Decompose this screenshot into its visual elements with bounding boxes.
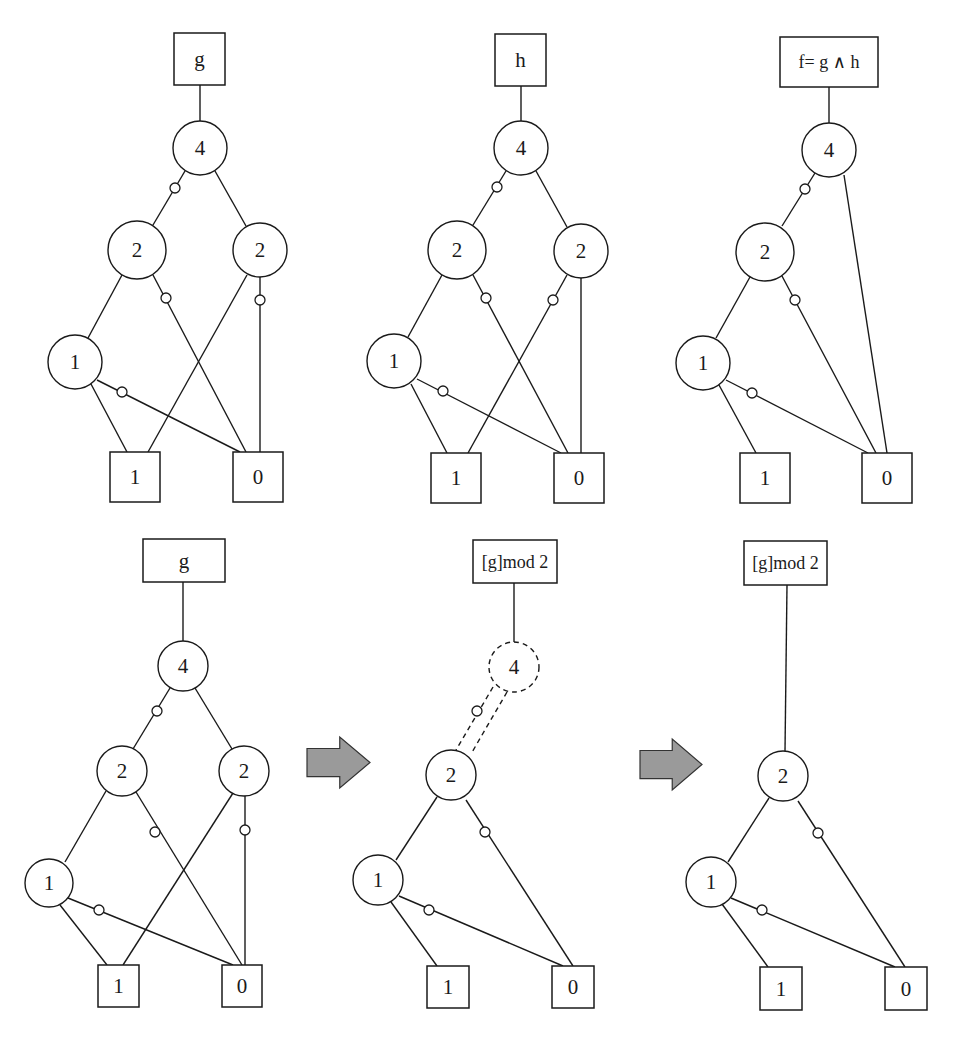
panel-top-h: h422110	[367, 34, 608, 503]
complement-marker-icon	[117, 387, 127, 397]
function-label-box: g	[143, 539, 225, 582]
function-label-box: g	[174, 33, 225, 85]
edge	[399, 896, 563, 966]
variable-node: 2	[97, 746, 147, 796]
function-label-box: [g]mod 2	[473, 540, 557, 583]
terminal-node-0: 0	[554, 453, 604, 503]
terminal-node-0: 0	[862, 453, 912, 503]
terminal-node-0: 0	[222, 965, 262, 1007]
complement-marker-icon	[548, 295, 558, 305]
terminal-label: 1	[443, 975, 454, 999]
edge	[88, 275, 122, 338]
terminal-label: 0	[574, 466, 585, 490]
node-label: 2	[132, 238, 143, 262]
terminal-node-1: 1	[110, 452, 160, 502]
edge	[473, 171, 506, 225]
complement-marker-icon	[161, 293, 171, 303]
edge	[716, 277, 750, 338]
edge	[728, 798, 769, 862]
variable-node: 2	[233, 223, 287, 277]
variable-node: 1	[686, 857, 736, 907]
function-label: g	[194, 47, 205, 71]
node-label: 2	[778, 764, 789, 788]
node-label: 1	[698, 351, 709, 375]
variable-node: 4	[158, 641, 208, 691]
terminal-label: 0	[901, 977, 912, 1001]
panel-bottom-g-edges	[60, 582, 245, 965]
complement-marker-icon	[424, 905, 434, 915]
edge	[785, 585, 787, 751]
edge	[536, 171, 567, 227]
right-arrow-icon	[640, 739, 702, 790]
variable-node: 1	[25, 859, 73, 907]
terminal-label: 0	[882, 466, 893, 490]
edge	[798, 801, 905, 967]
complement-marker-icon	[492, 182, 502, 192]
variable-node: 2	[554, 224, 608, 278]
edge	[68, 898, 233, 965]
terminal-node-0: 0	[233, 452, 283, 502]
terminal-node-1: 1	[760, 967, 802, 1010]
node-label: 4	[178, 654, 189, 678]
function-label-box: [g]mod 2	[744, 541, 827, 585]
function-label: g	[179, 549, 190, 573]
terminal-node-1: 1	[98, 965, 139, 1007]
node-label: 2	[239, 759, 250, 783]
complement-marker-icon	[438, 386, 448, 396]
variable-node: 1	[48, 335, 102, 389]
node-label: 2	[760, 240, 771, 264]
variable-node: 2	[758, 751, 808, 801]
complement-marker-icon	[240, 825, 250, 835]
variable-node: 2	[108, 221, 166, 279]
edge	[215, 171, 246, 226]
terminal-label: 1	[130, 465, 141, 489]
complement-marker-icon	[800, 184, 810, 194]
panel-bottom-mod-step1-edges	[391, 583, 573, 966]
removed-variable-node: 4	[489, 642, 539, 692]
node-label: 1	[389, 349, 400, 373]
complement-marker-icon	[481, 293, 491, 303]
edge	[123, 793, 233, 965]
node-label: 4	[509, 655, 520, 679]
terminal-label: 1	[451, 466, 462, 490]
panel-bottom-mod-step1: [g]mod 242110	[353, 540, 594, 1008]
variable-node: 1	[353, 855, 403, 905]
node-label: 1	[70, 350, 81, 374]
terminal-label: 0	[568, 975, 579, 999]
terminal-node-1: 1	[431, 453, 481, 503]
function-label-box: h	[495, 34, 546, 86]
nodes-layer: g422110h422110f= g ∧ h42110g422110[g]mod…	[25, 33, 927, 1010]
variable-node: 4	[802, 123, 856, 177]
variable-node: 4	[494, 121, 548, 175]
complement-marker-icon	[255, 295, 265, 305]
complement-marker-icon	[94, 905, 104, 915]
function-label: [g]mod 2	[482, 552, 549, 572]
edge	[396, 797, 437, 860]
terminal-node-0: 0	[885, 967, 927, 1010]
node-label: 2	[452, 238, 463, 262]
edge	[782, 173, 815, 226]
panel-bottom-mod-step2: [g]mod 22110	[686, 541, 927, 1010]
panel-top-g: g422110	[48, 33, 287, 502]
node-label: 2	[117, 759, 128, 783]
node-label: 1	[373, 868, 384, 892]
panel-bottom-mod-step2-edges	[722, 585, 905, 967]
complement-marker-icon	[472, 706, 482, 716]
variable-node: 1	[367, 334, 421, 388]
terminal-node-0: 0	[552, 966, 594, 1008]
node-label: 4	[195, 136, 206, 160]
complement-marker-icon	[747, 388, 757, 398]
terminal-label: 1	[113, 974, 124, 998]
terminal-label: 0	[237, 974, 248, 998]
edge	[133, 688, 170, 749]
complement-marker-icon	[152, 706, 162, 716]
panel-top-f: f= g ∧ h42110	[676, 37, 912, 503]
edge	[65, 791, 106, 862]
edge	[466, 800, 573, 966]
complement-marker-icon	[150, 827, 160, 837]
right-arrow-icon	[307, 737, 370, 788]
variable-node: 2	[736, 223, 794, 281]
complement-marker-icon	[170, 183, 180, 193]
function-label: f= g ∧ h	[799, 52, 860, 72]
edge	[195, 688, 232, 749]
